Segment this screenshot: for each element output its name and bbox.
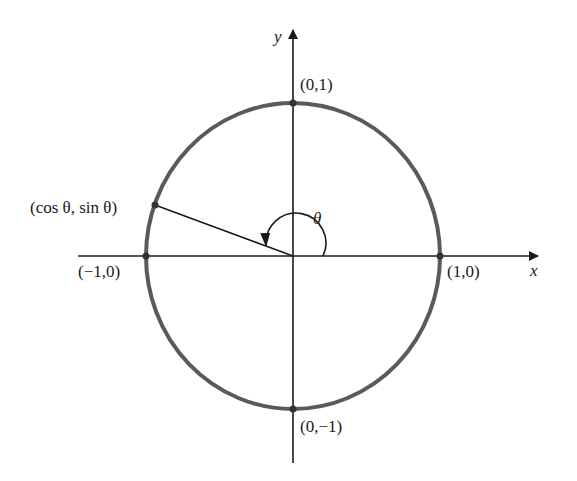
label-bottom-point: (0,−1) [300, 417, 342, 436]
unit-circle-diagram: y x (0,1) (0,−1) (−1,0) (1,0) (cos θ, si… [0, 0, 577, 481]
theta-label: θ [313, 209, 321, 228]
point-bottom [290, 406, 297, 413]
radius-line [155, 205, 293, 256]
label-terminal-point: (cos θ, sin θ) [30, 198, 117, 217]
y-axis-label: y [272, 27, 282, 46]
label-right-point: (1,0) [447, 262, 480, 281]
point-top [290, 100, 297, 107]
point-terminal [152, 202, 159, 209]
point-right [437, 253, 444, 260]
label-top-point: (0,1) [300, 75, 333, 94]
label-left-point: (−1,0) [78, 262, 120, 281]
point-left [143, 253, 150, 260]
x-axis-label: x [529, 261, 538, 280]
